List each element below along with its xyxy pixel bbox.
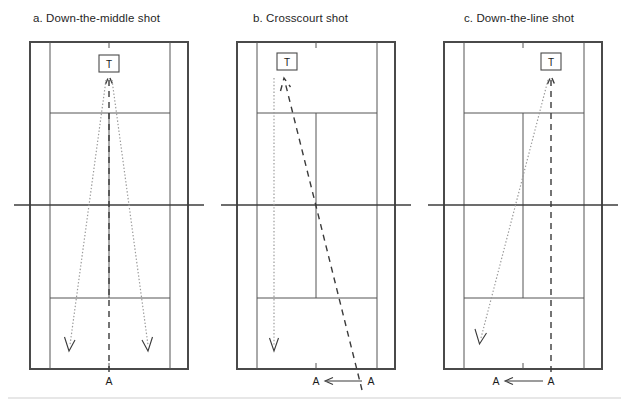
tennis-shot-diagram-figure: a. Down-the-middle shot T A — [0, 0, 629, 405]
panel-b-title: b. Crosscourt shot — [253, 12, 349, 24]
marker-label-t: T — [284, 57, 290, 68]
panel-b-player-marker: T — [277, 53, 297, 70]
panel-a-player-marker: T — [99, 55, 119, 72]
panel-c-bottom-label-group: A A — [492, 375, 554, 387]
panel-a-title: a. Down-the-middle shot — [33, 12, 161, 24]
panel-b: b. Crosscourt shot T A A — [221, 12, 411, 390]
panel-c-court — [428, 42, 618, 369]
return-path-right-dotted — [112, 80, 148, 345]
panel-a-bottom-label-a: A — [105, 375, 112, 387]
panel-c-shot-paths — [475, 76, 555, 372]
return-path-right-arrowhead — [142, 337, 153, 351]
panel-c-title: c. Down-the-line shot — [464, 12, 575, 24]
panel-b-bottom-label-a-origin: A — [367, 375, 374, 387]
panel-c: c. Down-the-line shot T A A — [428, 12, 618, 387]
return-path-left-dotted — [70, 80, 106, 345]
marker-label-t: T — [548, 57, 554, 68]
panel-b-bottom-label-a-target: A — [312, 375, 319, 387]
panel-c-bottom-label-a-origin: A — [547, 375, 554, 387]
return-path-dotted — [481, 80, 548, 338]
panel-c-player-marker: T — [541, 53, 561, 70]
marker-label-t: T — [106, 59, 112, 70]
panel-c-bottom-label-a-target: A — [492, 375, 499, 387]
panel-a: a. Down-the-middle shot T A — [14, 12, 204, 387]
panel-b-bottom-label-group: A A — [312, 375, 374, 387]
return-path-arrowhead — [475, 329, 487, 344]
crosscourt-arrowhead — [281, 78, 291, 91]
crosscourt-dashed-path — [285, 82, 362, 390]
